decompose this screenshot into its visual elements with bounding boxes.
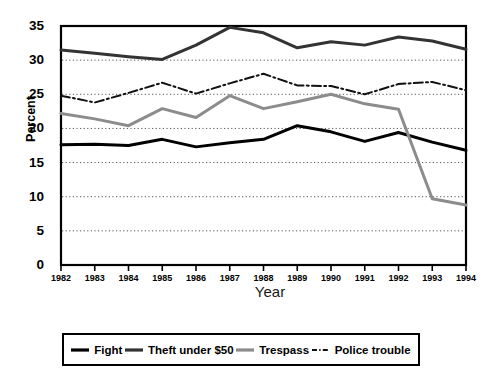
legend-item-police-trouble[interactable]: Police trouble [312,344,411,356]
chart-legend: FightTheft under $50TrespassPolice troub… [62,333,420,366]
legend-label: Police trouble [335,344,411,356]
legend-swatch-dashdot-icon [312,344,330,356]
plot-canvas [0,0,482,379]
x-axis-title: Year [60,283,480,300]
legend-item-theft-under-50[interactable]: Theft under $50 [125,344,234,356]
series-line-theft-under-50 [61,27,466,59]
legend-item-fight[interactable]: Fight [71,344,122,356]
series-line-police-trouble [61,74,466,103]
series-line-trespass [61,94,466,205]
legend-item-trespass[interactable]: Trespass [236,344,309,356]
legend-swatch-solid-icon [236,344,254,356]
chart-figure: Percent 35302520151050 Year FightTheft u… [0,0,482,379]
x-tick-label-1994: 1994 [446,274,482,283]
legend-label: Fight [94,344,122,356]
legend-label: Trespass [259,344,309,356]
legend-label: Theft under $50 [148,344,234,356]
legend-swatch-solid-icon [125,344,143,356]
legend-swatch-solid-icon [71,344,89,356]
